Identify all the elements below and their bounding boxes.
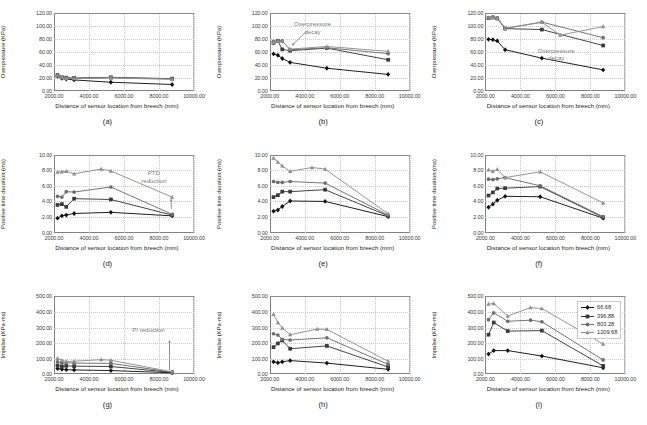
x-tick-label: 6000.00	[546, 93, 565, 99]
figure-grid: 0.0020.0040.0060.0080.00100.00120.002000…	[0, 0, 647, 425]
x-tick-label: 4000.00	[80, 93, 99, 99]
x-tick-label: 4000.00	[295, 376, 314, 382]
legend-label: 803.28	[597, 321, 614, 328]
gridline-vertical	[410, 155, 411, 233]
x-tick-label: 6000.00	[330, 235, 349, 241]
y-axis-label: Overpressure (KPa)	[0, 13, 8, 91]
x-tick-label: 10000.00	[614, 93, 636, 99]
legend-label: 66.68	[597, 304, 611, 311]
gridline-vertical	[410, 296, 411, 374]
x-axis-ticks: 2000.004000.006000.008000.0010000.00	[54, 235, 194, 244]
y-tick-label: 6.00	[473, 183, 483, 189]
x-axis-ticks: 2000.004000.006000.008000.0010000.00	[54, 93, 194, 102]
y-axis-ticks: 0.00100.00200.00300.00400.00500.00	[447, 296, 483, 374]
x-tick-label: 6000.00	[330, 93, 349, 99]
x-axis-label: Distance of sensor location from breech …	[240, 244, 426, 251]
chart-panel-h: 0.00100.00200.00300.00400.00500.002000.0…	[216, 283, 431, 424]
annotation-arrow	[54, 155, 194, 233]
x-tick-label: 8000.00	[581, 376, 600, 382]
legend-item[interactable]: 1209.68	[580, 329, 617, 336]
x-tick-label: 4000.00	[511, 235, 530, 241]
y-axis-label: Impulse (KPa-ms)	[0, 296, 8, 374]
series-layer	[54, 13, 194, 91]
x-tick-label: 2000.00	[476, 235, 495, 241]
panel-letter: (d)	[0, 259, 215, 268]
chart-legend[interactable]: 66.68 396.88 803.28 1209.68	[577, 301, 621, 339]
y-tick-label: 4.00	[258, 198, 268, 204]
series-66.68	[487, 349, 606, 371]
x-tick-label: 8000.00	[150, 93, 169, 99]
series-layer	[485, 155, 625, 233]
y-tick-label: 10.00	[470, 152, 483, 158]
chart-panel-b: 0.0020.0040.0060.0080.00100.00120.00Over…	[216, 0, 431, 141]
x-tick-label: 2000.00	[260, 235, 279, 241]
annotation-line-2: decay	[538, 54, 575, 61]
gridline-vertical	[410, 13, 411, 91]
y-tick-label: 100.00	[36, 356, 52, 362]
x-axis-label: Distance of sensor location from breech …	[240, 102, 426, 109]
x-tick-label: 2000.00	[45, 235, 64, 241]
y-tick-label: 300.00	[467, 325, 483, 331]
x-tick-label: 8000.00	[581, 235, 600, 241]
y-tick-label: 100.00	[467, 356, 483, 362]
x-tick-label: 10000.00	[399, 376, 421, 382]
x-tick-label: 6000.00	[546, 376, 565, 382]
x-tick-label: 6000.00	[546, 235, 565, 241]
y-tick-label: 500.00	[252, 293, 268, 299]
y-tick-label: 60.00	[470, 49, 483, 55]
y-tick-label: 60.00	[39, 49, 52, 55]
series-1209.68	[271, 312, 390, 363]
gridline-vertical	[194, 296, 195, 374]
y-tick-label: 200.00	[252, 340, 268, 346]
y-axis-ticks: 0.002.004.006.008.0010.00	[232, 155, 268, 233]
y-tick-label: 100.00	[36, 23, 52, 29]
plot-area-c: Overpressuredecay	[485, 13, 625, 91]
panel-letter: (e)	[216, 259, 431, 268]
x-axis-ticks: 2000.004000.006000.008000.0010000.00	[485, 376, 625, 385]
y-tick-label: 40.00	[470, 62, 483, 68]
legend-label: 396.88	[597, 313, 614, 320]
y-tick-label: 100.00	[252, 23, 268, 29]
x-tick-label: 6000.00	[115, 235, 134, 241]
y-tick-label: 40.00	[255, 62, 268, 68]
y-tick-label: 120.00	[36, 10, 52, 16]
x-tick-label: 10000.00	[183, 235, 205, 241]
y-axis-label: Positive time duration (ms)	[429, 155, 439, 233]
y-tick-label: 200.00	[36, 340, 52, 346]
series-66.68	[271, 359, 390, 373]
plot-area-h	[270, 296, 410, 374]
y-axis-label: Impulse (KPa-ms)	[429, 296, 439, 374]
x-tick-label: 8000.00	[150, 235, 169, 241]
chart-annotation: Overpressuredecay	[538, 47, 575, 62]
annotation-line-1: Overpressure	[538, 47, 575, 54]
panel-letter: (h)	[216, 400, 431, 409]
legend-item[interactable]: 66.68	[580, 304, 617, 311]
series-66.68	[487, 194, 606, 221]
plot-area-b: Overpressuredecay	[270, 13, 410, 91]
panel-letter: (b)	[216, 117, 431, 126]
y-tick-label: 4.00	[473, 198, 483, 204]
x-tick-label: 4000.00	[80, 376, 99, 382]
legend-item[interactable]: 396.88	[580, 313, 617, 320]
annotation-arrow	[54, 296, 194, 374]
y-axis-label: Overpressure (KPa)	[214, 13, 224, 91]
x-axis-label: Distance of sensor location from breech …	[240, 385, 426, 392]
x-tick-label: 2000.00	[45, 376, 64, 382]
y-tick-label: 4.00	[42, 198, 52, 204]
gridline-vertical	[625, 13, 626, 91]
y-tick-label: 10.00	[39, 152, 52, 158]
legend-item[interactable]: 803.28	[580, 321, 617, 328]
y-tick-label: 8.00	[258, 167, 268, 173]
x-tick-label: 4000.00	[295, 235, 314, 241]
chart-panel-e: 0.002.004.006.008.0010.002000.004000.006…	[216, 142, 431, 283]
plot-area-e	[270, 155, 410, 233]
x-tick-label: 6000.00	[115, 376, 134, 382]
y-axis-ticks: 0.00100.00200.00300.00400.00500.00	[16, 296, 52, 374]
plot-area-d: PTDreduction	[54, 155, 194, 233]
chart-panel-a: 0.0020.0040.0060.0080.00100.00120.002000…	[0, 0, 215, 141]
y-tick-label: 100.00	[467, 23, 483, 29]
chart-panel-g: 0.00100.00200.00300.00400.00500.00PI red…	[0, 283, 215, 424]
plot-area-a	[54, 13, 194, 91]
x-tick-label: 4000.00	[511, 376, 530, 382]
x-axis-ticks: 2000.004000.006000.008000.0010000.00	[54, 376, 194, 385]
